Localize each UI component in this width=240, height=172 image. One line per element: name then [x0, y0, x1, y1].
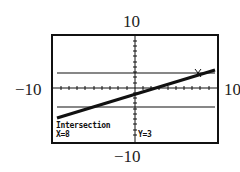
y-readout: Y=3 — [138, 131, 152, 139]
intersection-label: Intersection — [56, 122, 110, 130]
y-max-label: 10 — [123, 13, 140, 30]
x-max-label: 10 — [224, 81, 240, 98]
x-min-label: −10 — [15, 81, 42, 98]
x-readout: X=8 — [56, 131, 70, 139]
calculator-graph-screen: Intersection X=8 Y=3 — [51, 34, 219, 144]
y-min-label: −10 — [114, 148, 141, 165]
